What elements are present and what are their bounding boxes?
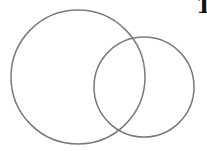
corner-label: 1	[196, 0, 207, 16]
left-circle	[11, 10, 145, 144]
venn-diagram	[0, 0, 207, 151]
